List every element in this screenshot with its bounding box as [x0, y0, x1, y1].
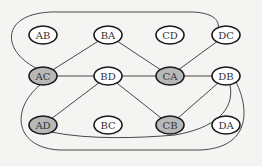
node-ac: AC	[29, 67, 57, 85]
node-label: BC	[100, 120, 116, 131]
node-label: AD	[34, 120, 50, 131]
node-bc: BC	[94, 116, 122, 134]
nodes-layer: ABBACDDCACBDCADBADBCCBDA	[29, 26, 240, 134]
node-cb: CB	[156, 116, 184, 134]
node-da: DA	[212, 116, 240, 134]
edge-ad-db	[51, 85, 231, 138]
node-label: BA	[101, 30, 116, 41]
node-ad: AD	[29, 116, 57, 134]
node-dc: DC	[212, 26, 240, 44]
node-db: DB	[212, 67, 240, 85]
node-ca: CA	[156, 67, 184, 85]
node-label: CD	[162, 30, 178, 41]
node-label: CA	[163, 71, 179, 82]
node-ab: AB	[29, 26, 57, 44]
node-label: CB	[163, 120, 178, 131]
node-label: AC	[35, 71, 51, 82]
node-ba: BA	[94, 26, 122, 44]
node-cd: CD	[156, 26, 184, 44]
node-label: DC	[218, 30, 234, 41]
node-label: BD	[100, 71, 115, 82]
node-label: AB	[35, 30, 51, 41]
node-bd: BD	[94, 67, 122, 85]
node-label: DB	[218, 71, 233, 82]
node-label: DA	[218, 120, 234, 131]
graph-svg: ABBACDDCACBDCADBADBCCBDA	[0, 0, 262, 166]
graph-diagram: ABBACDDCACBDCADBADBCCBDA	[0, 0, 262, 166]
